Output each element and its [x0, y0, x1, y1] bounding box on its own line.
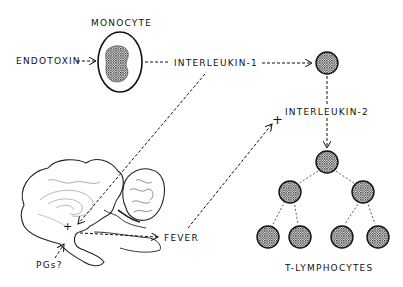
pgs-to-brain-arrow [55, 244, 64, 258]
t-cell-leaf-2 [289, 226, 311, 248]
plus-sign-brain: + [63, 222, 72, 232]
plus-sign-il2: + [272, 115, 283, 125]
interleukin-2-label: INTERLEUKIN-2 [285, 107, 369, 117]
brain-to-fever-arrow [80, 233, 158, 237]
endotoxin-label: ENDOTOXIN [16, 56, 81, 66]
t-cell-leaf-3 [331, 226, 353, 248]
monocyte-label: MONOCYTE [91, 18, 152, 28]
fever-label: FEVER [164, 233, 199, 243]
il1-to-brain-arrow [78, 74, 205, 224]
pgs-label: PGs? [36, 260, 63, 270]
monocyte-cell [98, 32, 142, 92]
t-cell-leaf-4 [367, 226, 389, 248]
brain-illustration [21, 160, 165, 266]
t-cell-leaf-1 [257, 226, 279, 248]
interleukin-1-label: INTERLEUKIN-1 [174, 58, 258, 68]
fever-to-il2-arrow [188, 124, 272, 228]
diagram-canvas [0, 0, 403, 287]
t-cell-activated [316, 52, 338, 74]
t-cell-right [352, 181, 374, 203]
t-cell-left [279, 181, 301, 203]
t-lymphocytes-label: T-LYMPHOCYTES [285, 263, 373, 273]
t-cell-root [316, 151, 338, 173]
